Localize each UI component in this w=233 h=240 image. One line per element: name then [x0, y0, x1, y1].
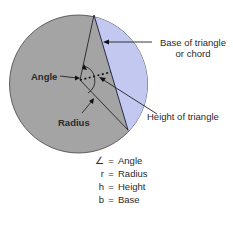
legend-symbol: b — [88, 193, 104, 206]
radius-label: Radius — [58, 117, 90, 128]
base-label: Base of triangle or chord — [154, 37, 232, 59]
equals-sign: = — [104, 180, 118, 193]
legend-row-radius: r = Radius — [88, 167, 148, 180]
legend-meaning: Angle — [118, 154, 142, 167]
legend-row-angle: ∠ = Angle — [88, 154, 148, 167]
legend-symbol: r — [88, 167, 104, 180]
legend-row-base: b = Base — [88, 193, 148, 206]
equals-sign: = — [104, 167, 118, 180]
legend-row-height: h = Height — [88, 180, 148, 193]
angle-label: Angle — [31, 71, 57, 82]
angle-symbol-icon: ∠ — [88, 154, 104, 167]
legend-symbol: h — [88, 180, 104, 193]
base-label-line-1: Base of triangle — [154, 37, 232, 48]
base-label-line-2: or chord — [154, 48, 232, 59]
equals-sign: = — [104, 193, 118, 206]
equals-sign: = — [104, 154, 118, 167]
legend-meaning: Base — [118, 193, 140, 206]
height-label: Height of triangle — [147, 111, 219, 122]
legend: ∠ = Angle r = Radius h = Height b = Base — [88, 154, 148, 206]
legend-meaning: Radius — [118, 167, 148, 180]
legend-meaning: Height — [118, 180, 145, 193]
